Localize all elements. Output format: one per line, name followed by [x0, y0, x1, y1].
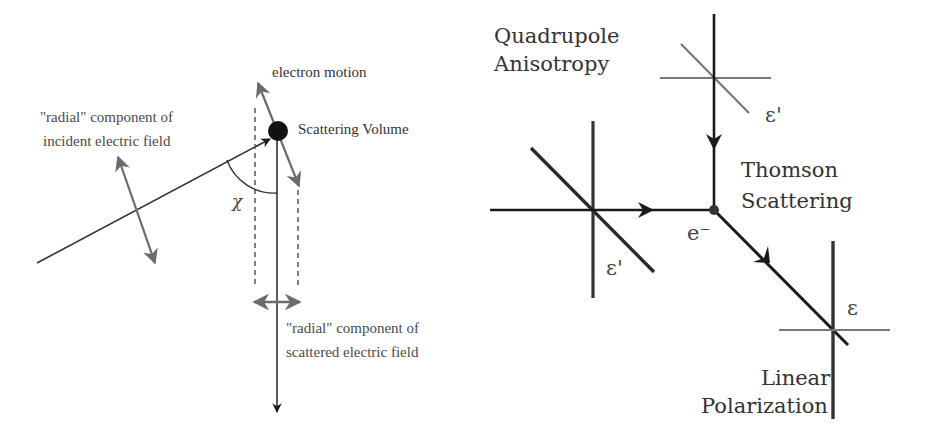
linear-label-line2: Polarization	[701, 394, 828, 418]
left-scattering-diagram: electron motion Scattering Volume "radia…	[37, 64, 419, 412]
thomson-label-line1: Thomson	[741, 158, 838, 182]
quadrupole-label-line2: Anisotropy	[493, 52, 609, 76]
epsilon-out-label: ε	[847, 296, 858, 320]
electron-vertex-dot	[709, 205, 719, 215]
scattered-field-label-line1: "radial" component of	[286, 320, 419, 336]
figure-canvas: electron motion Scattering Volume "radia…	[0, 0, 926, 435]
incident-field-label-line1: "radial" component of	[40, 109, 173, 125]
right-thomson-diagram: Quadrupole Anisotropy Thomson Scattering…	[490, 14, 890, 419]
incident-field-label-line2: incident electric field	[43, 133, 171, 149]
outgoing-line	[714, 210, 848, 345]
incident-field-arrow	[118, 157, 155, 263]
scattering-volume-label: Scattering Volume	[298, 121, 409, 137]
thomson-label-line2: Scattering	[741, 189, 853, 213]
angle-chi-label: χ	[231, 191, 244, 211]
epsilon-prime-left-label: ε'	[606, 256, 623, 280]
scattered-field-label-line2: scattered electric field	[286, 344, 419, 360]
electron-motion-label: electron motion	[272, 64, 367, 80]
outgoing-arrowhead	[753, 246, 770, 263]
quadrupole-label-line1: Quadrupole	[494, 24, 620, 48]
epsilon-prime-top-label: ε'	[765, 103, 782, 127]
linear-label-line1: Linear	[761, 366, 831, 390]
scattering-volume-dot	[268, 121, 288, 141]
electron-label: e⁻	[687, 221, 711, 245]
angle-arc	[227, 160, 277, 193]
